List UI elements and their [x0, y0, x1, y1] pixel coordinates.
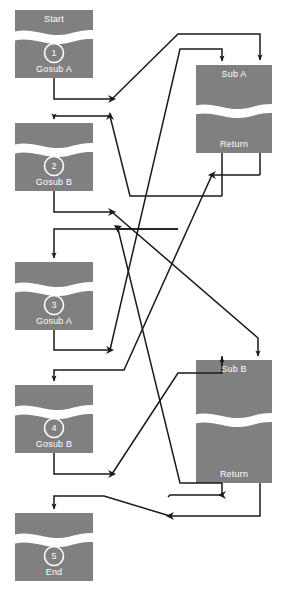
edge-n2-to-subB-seg1	[54, 191, 112, 212]
node-5[interactable]	[10, 513, 100, 581]
edge-n3-to-subA-seg1	[54, 330, 110, 350]
edge-n4-to-subB-seg1	[54, 453, 112, 474]
node-sub-b[interactable]	[191, 360, 280, 483]
flowchart-canvas: Start 1 Gosub A 2 Gosub B 3 Gosub A 4 Go…	[0, 0, 289, 592]
diagram-svg	[0, 0, 289, 592]
node-sub-a[interactable]	[191, 65, 280, 153]
edge-n1-to-subA-seg1	[54, 78, 112, 99]
edge-subB-return-right-stem	[170, 483, 260, 516]
node-1[interactable]	[10, 10, 100, 78]
edge-subB-return-join	[168, 495, 222, 497]
node-3[interactable]	[10, 262, 100, 330]
node-2[interactable]	[10, 123, 100, 191]
node-4[interactable]	[10, 385, 100, 453]
